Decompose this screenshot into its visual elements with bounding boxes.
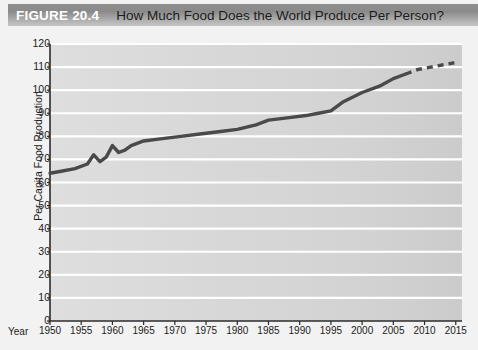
chart-plot-area bbox=[0, 0, 478, 350]
figure-container: FIGURE 20.4 How Much Food Does the World… bbox=[0, 0, 478, 350]
